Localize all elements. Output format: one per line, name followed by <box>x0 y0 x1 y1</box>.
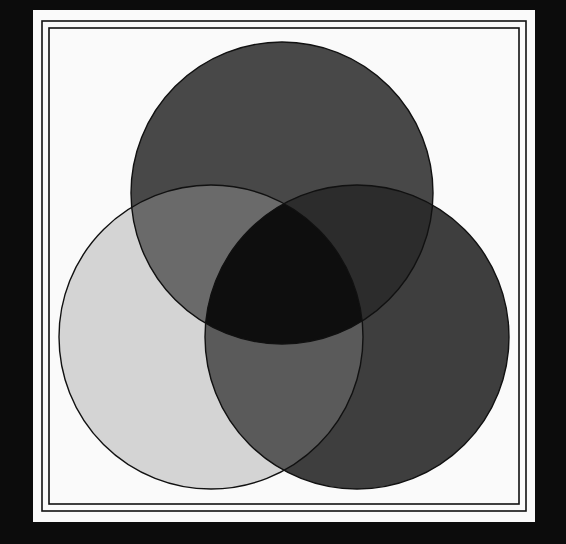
venn-diagram <box>0 0 566 544</box>
